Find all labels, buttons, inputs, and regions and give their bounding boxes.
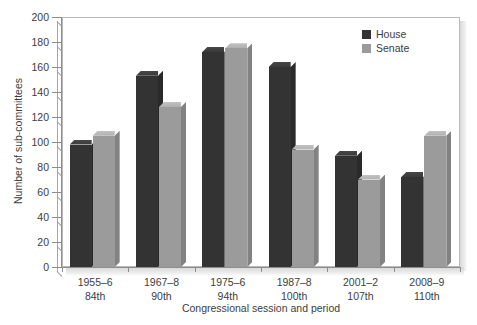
plot-floor-shading <box>66 267 464 276</box>
y-axis-tick-label: 0 <box>9 262 49 273</box>
bar-front-face <box>292 150 314 268</box>
plot-right-wall-shading <box>460 21 467 271</box>
bar-front-face <box>401 177 423 267</box>
x-label-session: 100th <box>261 290 327 304</box>
y-tick-mark <box>52 267 62 268</box>
legend-swatch-senate-icon <box>362 44 371 53</box>
x-label-period: 2001–2 <box>327 276 393 290</box>
y-tick-mark <box>52 92 62 93</box>
x-label-period: 2008–9 <box>394 276 460 290</box>
bar-front-face <box>202 52 224 267</box>
y-tick-mark <box>52 67 62 68</box>
legend-swatch-house-icon <box>362 30 371 39</box>
bar-house-90th <box>136 76 158 267</box>
bar-side-face <box>380 175 385 268</box>
x-label-period: 1975–6 <box>195 276 261 290</box>
y-tick-mark <box>52 142 62 143</box>
bar-front-face <box>424 136 446 267</box>
x-label-period: 1987–8 <box>261 276 327 290</box>
x-axis-group-label: 1955–684th <box>62 276 128 303</box>
x-axis-group-label: 1967–890th <box>128 276 194 303</box>
x-axis-group-label: 2001–2107th <box>327 276 393 303</box>
x-tick-mark <box>195 267 196 272</box>
bar-house-107th <box>335 156 357 267</box>
x-tick-mark <box>394 267 395 272</box>
bar-front-face <box>159 107 181 267</box>
x-tick-mark-origin <box>62 267 63 272</box>
bar-side-face <box>181 102 186 267</box>
x-axis-title: Congressional session and period <box>62 302 460 314</box>
bar-house-100th <box>269 67 291 267</box>
x-tick-mark <box>327 267 328 272</box>
legend-label-house: House <box>376 28 406 40</box>
bar-senate-107th <box>358 180 380 268</box>
x-axis-group-label: 2008–9110th <box>394 276 460 303</box>
bar-front-face <box>70 145 92 268</box>
x-label-session: 90th <box>128 290 194 304</box>
y-axis-title: Number of sub-committees <box>12 41 24 241</box>
bar-front-face <box>358 180 380 268</box>
bar-senate-110th <box>424 136 446 267</box>
legend-label-senate: Senate <box>376 42 409 54</box>
bar-side-face <box>247 43 252 267</box>
bar-chart: 200180160140120100806040200 1955–684th19… <box>0 0 477 325</box>
bar-front-face <box>93 136 115 267</box>
bar-front-face <box>335 156 357 267</box>
bar-senate-90th <box>159 107 181 267</box>
bar-front-face <box>269 67 291 267</box>
legend-item-senate: Senate <box>362 42 409 54</box>
y-tick-mark <box>52 42 62 43</box>
x-tick-mark <box>261 267 262 272</box>
x-label-period: 1955–6 <box>62 276 128 290</box>
x-tick-mark <box>460 267 461 272</box>
x-axis-group-label: 1975–694th <box>195 276 261 303</box>
bar-front-face <box>136 76 158 267</box>
x-label-period: 1967–8 <box>128 276 194 290</box>
bar-house-84th <box>70 145 92 268</box>
bar-senate-100th <box>292 150 314 268</box>
x-tick-mark <box>128 267 129 272</box>
bar-house-94th <box>202 52 224 267</box>
bar-front-face <box>225 48 247 267</box>
bar-side-face <box>446 131 451 267</box>
x-label-session: 110th <box>394 290 460 304</box>
x-axis-group-label: 1987–8100th <box>261 276 327 303</box>
legend-item-house: House <box>362 28 409 40</box>
x-label-session: 107th <box>327 290 393 304</box>
bar-house-110th <box>401 177 423 267</box>
bar-senate-94th <box>225 48 247 267</box>
bar-senate-84th <box>93 136 115 267</box>
x-label-session: 84th <box>62 290 128 304</box>
y-tick-mark <box>52 242 62 243</box>
bar-side-face <box>115 131 120 267</box>
bar-side-face <box>314 145 319 268</box>
y-tick-mark <box>52 192 62 193</box>
y-axis-tick-label: 200 <box>9 12 49 23</box>
y-tick-mark <box>52 17 62 18</box>
y-tick-mark <box>52 167 62 168</box>
y-tick-mark <box>52 117 62 118</box>
legend: House Senate <box>362 28 409 56</box>
x-label-session: 94th <box>195 290 261 304</box>
y-tick-mark <box>52 217 62 218</box>
